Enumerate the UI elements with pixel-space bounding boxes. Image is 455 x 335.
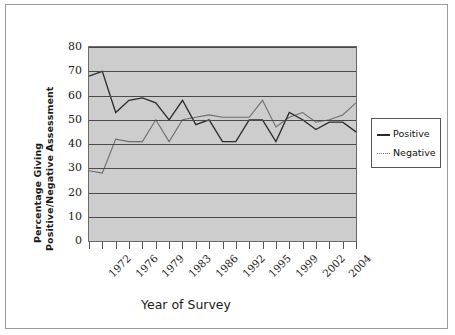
y-axis-label-line1: Percentage Giving <box>32 143 43 243</box>
x-tick-label: 1986 <box>213 252 240 279</box>
x-tick-label: 1976 <box>133 252 160 279</box>
y-tick-label: 60 <box>58 89 82 102</box>
y-tick-label: 0 <box>58 234 82 247</box>
plot-area <box>88 46 357 242</box>
x-tick-label: 1995 <box>266 252 293 279</box>
x-tick-mark <box>303 242 304 249</box>
x-tick-label: 1972 <box>106 252 133 279</box>
y-tick-label: 70 <box>58 64 82 77</box>
gridline <box>89 96 356 97</box>
x-tick-mark <box>89 242 90 249</box>
x-tick-mark <box>182 242 183 249</box>
legend-solid-line-icon <box>377 134 390 136</box>
x-tick-mark <box>236 242 237 249</box>
gridline <box>89 71 356 72</box>
x-tick-mark <box>316 242 317 249</box>
x-tick-label: 1983 <box>186 252 213 279</box>
x-tick-mark <box>196 242 197 249</box>
x-tick-mark <box>102 242 103 249</box>
gridline <box>89 193 356 194</box>
x-tick-mark <box>209 242 210 249</box>
legend-label: Positive <box>393 128 430 139</box>
chart-legend: PositiveNegative <box>371 118 441 168</box>
x-tick-mark <box>276 242 277 249</box>
chart-figure: Percentage Giving Positive/Negative Asse… <box>6 5 449 330</box>
x-tick-label: 2004 <box>346 252 373 279</box>
y-tick-label: 80 <box>58 40 82 53</box>
x-tick-mark <box>156 242 157 249</box>
x-tick-label: 2002 <box>319 252 346 279</box>
gridline <box>89 144 356 145</box>
x-tick-mark <box>289 242 290 249</box>
x-tick-mark <box>116 242 117 249</box>
x-tick-mark <box>263 242 264 249</box>
x-axis-label: Year of Survey <box>6 297 366 312</box>
gridline <box>89 168 356 169</box>
gridline <box>89 217 356 218</box>
y-tick-label: 30 <box>58 161 82 174</box>
series-line-positive <box>89 71 356 141</box>
series-line-negative <box>89 100 356 173</box>
x-tick-label: 1992 <box>239 252 266 279</box>
x-tick-mark <box>142 242 143 249</box>
x-tick-label: 1979 <box>159 252 186 279</box>
y-tick-label: 10 <box>58 210 82 223</box>
y-axis-label-line2: Positive/Negative Assessment <box>44 86 55 251</box>
x-tick-mark <box>249 242 250 249</box>
x-tick-mark <box>223 242 224 249</box>
x-tick-mark <box>129 242 130 249</box>
x-tick-mark <box>169 242 170 249</box>
x-tick-mark <box>343 242 344 249</box>
x-tick-mark <box>356 242 357 249</box>
y-tick-label: 20 <box>58 186 82 199</box>
gridline <box>89 120 356 121</box>
y-tick-label: 40 <box>58 137 82 150</box>
y-tick-label: 50 <box>58 113 82 126</box>
x-tick-mark <box>329 242 330 249</box>
gridline <box>89 47 356 48</box>
figure-frame: Percentage Giving Positive/Negative Asse… <box>5 4 448 329</box>
legend-dotted-line-icon <box>377 153 390 154</box>
x-tick-label: 1999 <box>293 252 320 279</box>
legend-label: Negative <box>393 147 436 158</box>
